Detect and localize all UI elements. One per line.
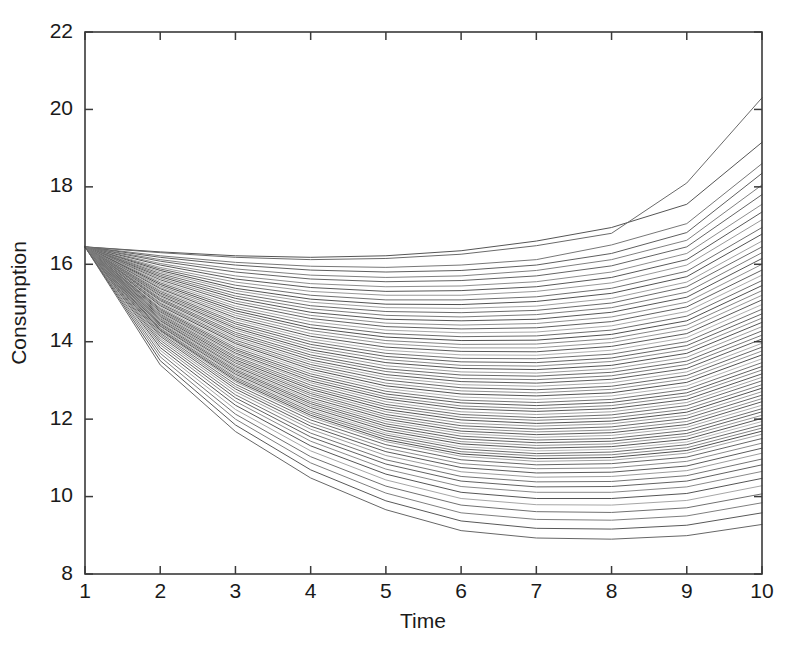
x-tick-label: 4 — [305, 579, 317, 602]
y-axis-title: Consumption — [7, 241, 30, 365]
x-tick-label: 2 — [154, 579, 166, 602]
x-tick-label: 1 — [79, 579, 91, 602]
x-tick-label: 10 — [750, 579, 773, 602]
x-tick-label: 7 — [530, 579, 542, 602]
figure-container: 810121416182022 12345678910 Time Consump… — [0, 0, 798, 652]
x-tick-label: 3 — [230, 579, 242, 602]
x-tick-label: 9 — [681, 579, 693, 602]
chart-background — [0, 0, 798, 652]
y-tick-label: 20 — [50, 96, 73, 119]
y-tick-label: 16 — [50, 251, 73, 274]
x-tick-label: 6 — [455, 579, 467, 602]
y-tick-label: 10 — [50, 483, 73, 506]
y-tick-label: 18 — [50, 173, 73, 196]
x-tick-label: 8 — [606, 579, 618, 602]
y-tick-label: 14 — [50, 328, 74, 351]
y-tick-label: 22 — [50, 19, 73, 42]
y-tick-label: 12 — [50, 406, 73, 429]
x-tick-label: 5 — [380, 579, 392, 602]
x-axis-title: Time — [400, 609, 446, 632]
line-chart-svg: 810121416182022 12345678910 Time Consump… — [0, 0, 798, 652]
y-tick-label: 8 — [61, 561, 73, 584]
